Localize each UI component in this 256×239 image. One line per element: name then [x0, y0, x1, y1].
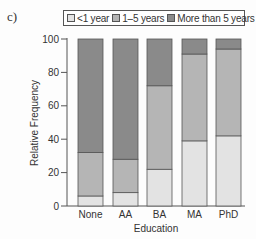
y-tick-label: 20	[48, 167, 60, 178]
bar-segment	[182, 39, 207, 54]
y-tick-label: 40	[48, 134, 60, 145]
bar-phd: PhD	[216, 39, 241, 220]
bar-segment	[147, 86, 172, 170]
bar-segment	[147, 39, 172, 86]
bar-segment	[113, 39, 138, 159]
x-tick-label: None	[79, 209, 103, 220]
bar-none: None	[78, 39, 103, 220]
y-tick-label: 0	[53, 201, 59, 212]
stacked-bar-chart: 020406080100 NoneAABAMAPhD EducationRela…	[0, 0, 256, 239]
bar-segment	[216, 136, 241, 206]
bar-aa: AA	[113, 39, 138, 220]
bar-segment	[78, 196, 103, 206]
bar-segment	[113, 159, 138, 192]
bars: NoneAABAMAPhD	[78, 39, 241, 220]
bar-ba: BA	[147, 39, 172, 220]
x-tick-label: PhD	[219, 209, 238, 220]
x-tick-label: AA	[119, 209, 133, 220]
bar-segment	[216, 39, 241, 49]
bar-segment	[113, 193, 138, 206]
bar-ma: MA	[182, 39, 207, 220]
x-tick-label: MA	[187, 209, 202, 220]
bar-segment	[78, 39, 103, 153]
y-axis-title: Relative Frequency	[29, 80, 40, 166]
y-tick-label: 100	[42, 34, 59, 45]
bar-segment	[182, 141, 207, 206]
x-axis-title: Education	[134, 223, 178, 234]
y-tick-label: 60	[48, 100, 60, 111]
bar-segment	[216, 49, 241, 136]
x-tick-label: BA	[153, 209, 167, 220]
y-tick-label: 80	[48, 67, 60, 78]
bar-segment	[78, 153, 103, 196]
bar-segment	[147, 169, 172, 206]
bar-segment	[182, 54, 207, 141]
axes: 020406080100	[42, 34, 245, 212]
